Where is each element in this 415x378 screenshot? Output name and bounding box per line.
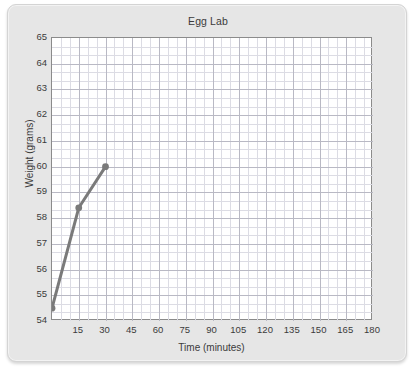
x-axis-title: Time (minutes) xyxy=(51,342,372,353)
data-series-line xyxy=(52,38,373,321)
y-tick-label: 55 xyxy=(21,290,47,300)
y-tick-label: 56 xyxy=(21,264,47,274)
y-axis-title: Weight (grams) xyxy=(24,79,35,229)
x-axis-tick-labels: 153045607590105120135150165180 xyxy=(51,325,372,339)
chart-card: Egg Lab 545556575859606162636465 1530456… xyxy=(7,4,407,362)
y-tick-label: 65 xyxy=(21,32,47,42)
chart-title: Egg Lab xyxy=(8,15,408,27)
y-tick-label: 64 xyxy=(21,58,47,68)
x-tick-label: 180 xyxy=(352,325,392,335)
plot-frame xyxy=(51,37,372,320)
chart-page: Egg Lab 545556575859606162636465 1530456… xyxy=(0,0,415,378)
y-tick-label: 54 xyxy=(21,315,47,325)
plot-area xyxy=(51,37,372,320)
y-tick-label: 57 xyxy=(21,238,47,248)
